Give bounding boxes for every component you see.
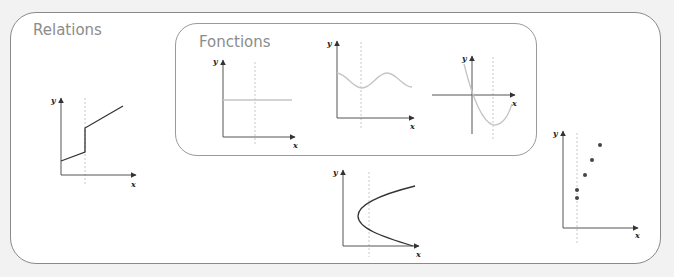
y-axis-label: y bbox=[552, 128, 559, 138]
x-axis-label: x bbox=[130, 179, 136, 189]
scatter-point bbox=[575, 188, 579, 192]
step-relation-graph: y x bbox=[50, 95, 136, 189]
constant-function-graph: y x bbox=[212, 56, 298, 150]
scatter-point bbox=[590, 158, 594, 162]
x-axis-label: x bbox=[511, 98, 517, 108]
x-axis-label: x bbox=[409, 121, 415, 131]
y-axis-label: y bbox=[212, 56, 219, 66]
y-axis-label: y bbox=[332, 167, 339, 177]
x-axis-label: x bbox=[415, 249, 421, 259]
step-line bbox=[61, 106, 123, 161]
parabola-function-graph: y x bbox=[432, 53, 517, 140]
y-axis-label: y bbox=[50, 95, 57, 105]
wave-function-graph: y x bbox=[326, 38, 415, 131]
sideways-parabola-curve bbox=[358, 186, 415, 246]
scatter-point bbox=[575, 196, 579, 200]
y-axis-label: y bbox=[461, 53, 468, 63]
scatter-point bbox=[583, 173, 587, 177]
wave-curve bbox=[337, 73, 412, 88]
sideways-parabola-relation-graph: y x bbox=[332, 167, 421, 259]
y-axis-label: y bbox=[326, 38, 333, 48]
x-axis-label: x bbox=[292, 140, 298, 150]
x-axis-label: x bbox=[634, 230, 640, 240]
scatter-point bbox=[598, 143, 602, 147]
graphs-canvas: y x y x y x y x y x bbox=[0, 0, 674, 277]
scatter-relation-graph: y x bbox=[552, 128, 640, 243]
